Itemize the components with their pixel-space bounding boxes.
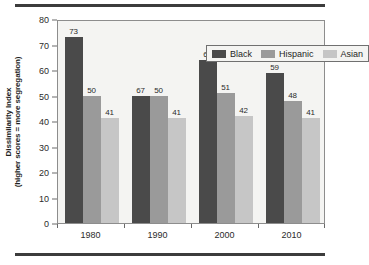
y-axis-tick-label: 10 xyxy=(39,194,49,204)
bar-value-label: 41 xyxy=(162,108,192,117)
bar-group: 675041 xyxy=(125,21,192,223)
legend-entry-asian[interactable]: Asian xyxy=(323,49,364,59)
bar-value-label: 41 xyxy=(95,108,125,117)
bar-item[interactable]: 73 xyxy=(65,21,83,223)
bar-item[interactable]: 41 xyxy=(101,21,119,223)
bar-asian[interactable] xyxy=(235,116,253,223)
x-axis-tick-label: 1980 xyxy=(80,230,100,240)
y-axis-tick-label: 60 xyxy=(39,66,49,76)
x-axis-tick-label: 2000 xyxy=(214,230,234,240)
y-axis-tick-label: 30 xyxy=(39,143,49,153)
bar-item[interactable]: 50 xyxy=(83,21,101,223)
x-axis-tick-mark xyxy=(324,224,325,228)
bar-black[interactable] xyxy=(65,37,83,223)
x-axis-tick-mark xyxy=(57,224,58,228)
legend-swatch-icon xyxy=(261,50,275,58)
legend-entry-hispanic[interactable]: Hispanic xyxy=(261,49,314,59)
legend-label: Hispanic xyxy=(279,49,314,59)
x-axis-tick-mark xyxy=(124,224,125,228)
bar-black[interactable] xyxy=(132,96,150,224)
y-axis-tick-label: 20 xyxy=(39,168,49,178)
bar-asian[interactable] xyxy=(101,118,119,223)
bar-value-label: 42 xyxy=(229,106,259,115)
y-axis-tick-label: 70 xyxy=(39,41,49,51)
legend-entry-black[interactable]: Black xyxy=(212,49,252,59)
bar-group: 735041 xyxy=(58,21,125,223)
bar-asian[interactable] xyxy=(168,118,186,223)
x-axis: 1980199020002010 xyxy=(57,226,325,246)
x-axis-tick-label: 1990 xyxy=(147,230,167,240)
x-axis-tick-label: 2010 xyxy=(281,230,301,240)
y-axis-tick-label: 50 xyxy=(39,92,49,102)
x-axis-tick-mark xyxy=(191,224,192,228)
y-axis-tick-label: 80 xyxy=(39,15,49,25)
bar-item[interactable]: 67 xyxy=(132,21,150,223)
bar-value-label: 41 xyxy=(296,108,326,117)
bar-hispanic[interactable] xyxy=(284,101,302,223)
bar-item[interactable]: 50 xyxy=(150,21,168,223)
bottom-divider-rule xyxy=(15,253,325,256)
x-axis-tick-mark xyxy=(258,224,259,228)
legend-swatch-icon xyxy=(323,50,337,58)
legend-label: Asian xyxy=(341,49,364,59)
bar-asian[interactable] xyxy=(302,118,320,223)
plot-area: 735041675041645142594841 BlackHispanicAs… xyxy=(57,20,325,224)
legend-swatch-icon xyxy=(212,50,226,58)
y-axis-tick-label: 0 xyxy=(44,219,49,229)
y-axis: 01020304050607080 xyxy=(0,20,57,224)
chart-legend: BlackHispanicAsian xyxy=(206,45,369,62)
legend-label: Black xyxy=(230,49,252,59)
top-divider-rule xyxy=(15,4,325,7)
bar-item[interactable]: 41 xyxy=(168,21,186,223)
y-axis-tick-label: 40 xyxy=(39,117,49,127)
